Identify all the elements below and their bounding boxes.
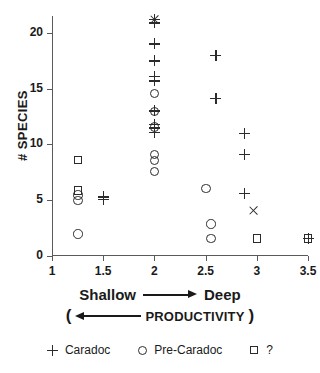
data-point-square (251, 233, 262, 244)
close-paren: ) (249, 306, 255, 326)
y-axis-line (52, 16, 53, 256)
data-point-plus (98, 194, 109, 205)
x-tick (257, 256, 258, 261)
data-point-plus (149, 38, 160, 49)
data-point-plus (149, 105, 160, 116)
scatter-plot-figure: # SPECIES 05101520 11.522.533.5 Shallow … (0, 0, 320, 373)
y-tick: 15 (47, 89, 52, 90)
x-tick (206, 256, 207, 261)
data-point-circle (149, 155, 160, 166)
data-point-circle (149, 166, 160, 177)
data-point-square (72, 155, 83, 166)
data-point-circle (72, 189, 83, 200)
data-point-square (303, 233, 314, 244)
y-tick-label: 5 (36, 192, 43, 206)
y-tick: 10 (47, 144, 52, 145)
circle-marker-icon (136, 345, 147, 356)
y-tick-label: 15 (30, 81, 43, 95)
data-point-plus (98, 191, 109, 202)
data-point-plus (239, 149, 250, 160)
data-point-plus (210, 50, 221, 61)
shallow-label: Shallow (79, 286, 136, 303)
data-point-plus (149, 71, 160, 82)
depth-gradient-row: Shallow Deep (0, 286, 320, 303)
x-tick (52, 256, 53, 261)
data-point-circle (149, 88, 160, 99)
plot-area: 05101520 11.522.533.5 (52, 16, 308, 256)
data-point-plus (210, 93, 221, 104)
legend-label: Pre-Caradoc (154, 343, 222, 357)
data-point-plus (149, 14, 160, 25)
legend-item: Pre-Caradoc (136, 343, 222, 357)
plus-marker-icon (47, 345, 58, 356)
productivity-gradient-row: ( PRODUCTIVITY ) (0, 306, 320, 326)
arrow-right-icon (143, 290, 197, 300)
square-marker-icon (248, 345, 259, 356)
data-point-plus (149, 122, 160, 133)
x-tick (103, 256, 104, 261)
x-tick-label: 1 (34, 264, 70, 278)
legend-item: Caradoc (47, 343, 110, 357)
data-point-cross (248, 205, 259, 216)
x-tick-label: 2 (136, 264, 172, 278)
x-tick (308, 256, 309, 261)
data-point-plus (239, 188, 250, 199)
data-point-cross (149, 14, 160, 25)
legend-label: ? (266, 343, 273, 357)
data-point-circle (149, 105, 160, 116)
data-point-plus (303, 233, 314, 244)
data-point-circle (72, 195, 83, 206)
data-point-circle (149, 121, 160, 132)
y-tick-label: 0 (36, 248, 43, 262)
data-point-circle (205, 233, 216, 244)
y-tick: 20 (47, 33, 52, 34)
deep-label: Deep (204, 286, 241, 303)
open-paren: ( (66, 306, 72, 326)
y-tick-label: 10 (30, 136, 43, 150)
x-axis-line (52, 255, 308, 256)
data-point-plus (149, 119, 160, 130)
x-tick-label: 1.5 (85, 264, 121, 278)
data-point-plus (149, 127, 160, 138)
legend-label: Caradoc (65, 343, 110, 357)
x-tick-label: 3.5 (290, 264, 320, 278)
legend-item: ? (248, 343, 273, 357)
y-tick: 5 (47, 200, 52, 201)
data-point-square (72, 185, 83, 196)
x-tick (154, 256, 155, 261)
x-tick-label: 2.5 (188, 264, 224, 278)
y-axis-label: # SPECIES (15, 66, 30, 186)
data-point-plus (149, 17, 160, 28)
y-tick-label: 20 (30, 25, 43, 39)
legend: CaradocPre-Caradoc? (0, 343, 320, 357)
arrow-left-icon (75, 311, 141, 321)
data-point-circle (72, 228, 83, 239)
data-point-plus (239, 128, 250, 139)
data-point-plus (149, 55, 160, 66)
x-tick-label: 3 (239, 264, 275, 278)
x-axis-annotation: Shallow Deep ( PRODUCTIVITY ) (0, 286, 320, 326)
data-point-circle (200, 182, 211, 193)
productivity-label: PRODUCTIVITY (145, 309, 244, 324)
data-point-plus (149, 75, 160, 86)
data-point-circle (205, 218, 216, 229)
data-point-circle (149, 149, 160, 160)
